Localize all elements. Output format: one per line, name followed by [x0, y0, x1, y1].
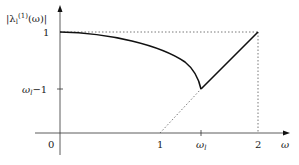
x-tick-label-1: 1	[157, 139, 163, 150]
y-tick-label-1: 1	[43, 27, 49, 38]
linear-branch	[201, 32, 258, 89]
y-axis-arrow-icon	[58, 5, 63, 12]
dotted-extension-line	[160, 89, 201, 133]
x-axis-arrow-icon	[283, 131, 290, 136]
diagram-canvas: |λl(1)(ω)| 1 ωl−1 0 1 ωl 2 ω	[0, 0, 299, 165]
x-axis-label: ω	[281, 139, 289, 150]
eigenvalue-curve	[60, 32, 201, 89]
origin-label: 0	[48, 139, 54, 150]
x-tick-label-omega-l: ωl	[196, 139, 206, 152]
y-tick-label-omega-l-minus-1: ωl−1	[22, 84, 47, 97]
x-tick-label-2: 2	[255, 139, 261, 150]
y-axis-label: |λl(1)(ω)|	[6, 12, 47, 26]
